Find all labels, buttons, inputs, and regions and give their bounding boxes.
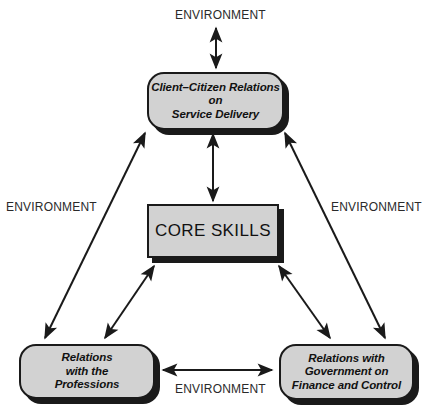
arrow-core-to-bottom-right [279, 266, 330, 338]
arrow-top-to-bottom-right [285, 133, 385, 338]
node-relations-with-government[interactable]: Relations withGovernment onFinance and C… [279, 344, 414, 400]
node-client-citizen-relations-label: Client–Citizen RelationsonService Delive… [149, 81, 282, 122]
node-core-skills[interactable]: CORE SKILLS [147, 204, 279, 258]
environment-label-bottom: ENVIRONMENT [175, 382, 266, 396]
environment-label-right: ENVIRONMENT [331, 200, 422, 214]
node-relations-with-professions[interactable]: Relationswith theProfessions [19, 344, 155, 399]
node-client-citizen-relations[interactable]: Client–Citizen RelationsonService Delive… [147, 72, 284, 130]
arrow-top-to-bottom-left [45, 133, 145, 338]
arrow-core-to-bottom-left [105, 266, 154, 338]
environment-label-left: ENVIRONMENT [6, 200, 97, 214]
environment-label-top: ENVIRONMENT [175, 8, 266, 22]
node-relations-with-professions-label: Relationswith theProfessions [21, 351, 153, 392]
node-relations-with-government-label: Relations withGovernment onFinance and C… [281, 352, 412, 393]
core-skills-diagram: Client–Citizen RelationsonService Delive… [0, 0, 427, 414]
node-core-skills-label: CORE SKILLS [149, 221, 277, 241]
